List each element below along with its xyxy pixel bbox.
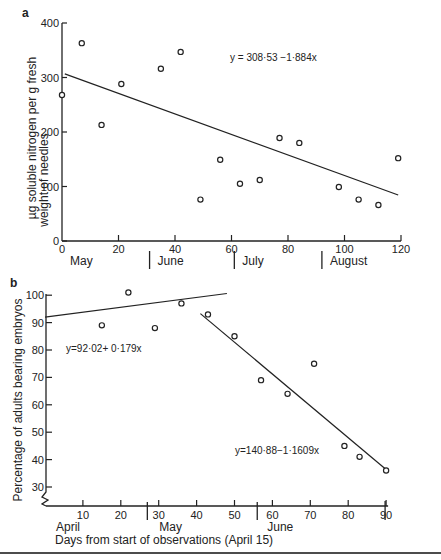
regression-equation-b-1: y=92·02+ 0·179x xyxy=(66,343,142,354)
x-tick-label-a: 20 xyxy=(112,243,124,255)
data-point-a xyxy=(198,197,203,202)
y-tick-label-b: 90 xyxy=(32,317,44,329)
data-point-a xyxy=(178,49,183,54)
month-label-b: April xyxy=(56,520,80,534)
y-tick-label-b: 70 xyxy=(32,371,44,383)
data-point-a xyxy=(277,135,282,140)
regression-line-a xyxy=(65,74,398,195)
y-tick-label-b: 100 xyxy=(26,289,44,301)
y-tick-label-b: 60 xyxy=(32,399,44,411)
x-tick-label-b: 80 xyxy=(342,509,354,521)
data-point-b xyxy=(179,301,184,306)
data-point-a xyxy=(79,41,84,46)
data-point-a xyxy=(158,66,163,71)
x-tick-label-b: 90 xyxy=(380,509,392,521)
data-point-a xyxy=(218,157,223,162)
x-tick-label-a: 60 xyxy=(225,243,237,255)
data-point-a xyxy=(376,202,381,207)
regression-equation-b-2: y=140·88−1·1609x xyxy=(235,445,319,456)
panel-label-b: b xyxy=(10,276,17,290)
data-point-a xyxy=(237,181,242,186)
data-point-a xyxy=(257,177,262,182)
data-point-a xyxy=(99,122,104,127)
month-label-a: July xyxy=(242,254,263,268)
x-tick-label-a: 0 xyxy=(59,243,65,255)
x-tick-label-a: 120 xyxy=(392,243,410,255)
data-point-b xyxy=(258,378,263,383)
month-label-a: June xyxy=(158,254,184,268)
data-point-a xyxy=(59,92,64,97)
x-tick-label-a: 80 xyxy=(282,243,294,255)
data-point-b xyxy=(205,312,210,317)
data-point-b xyxy=(232,334,237,339)
y-tick-label-a: 400 xyxy=(41,17,59,29)
y-axis-label-b: Percentage of adults bearing embryos xyxy=(11,299,25,502)
month-label-a: May xyxy=(70,254,93,268)
y-tick-label-b: 50 xyxy=(32,426,44,438)
x-tick-label-b: 40 xyxy=(190,509,202,521)
x-tick-label-b: 20 xyxy=(115,509,127,521)
data-point-a xyxy=(356,197,361,202)
data-point-a xyxy=(297,140,302,145)
chart-a: a0100200300400020406080100120MayJuneJuly… xyxy=(22,6,410,269)
data-point-a xyxy=(396,156,401,161)
data-point-b xyxy=(384,468,389,473)
y-axis-label-a-line2: weight of needles xyxy=(37,133,51,227)
data-point-b xyxy=(285,391,290,396)
regression-line-b-1 xyxy=(45,294,227,318)
y-tick-label-a: 300 xyxy=(41,72,59,84)
month-label-a: August xyxy=(330,254,368,268)
y-tick-label-b: 40 xyxy=(32,454,44,466)
y-tick-label-b: 80 xyxy=(32,344,44,356)
data-point-a xyxy=(336,184,341,189)
x-axis-label-b: Days from start of observations (April 1… xyxy=(55,533,273,547)
data-point-b xyxy=(342,443,347,448)
data-point-a xyxy=(119,81,124,86)
data-point-b xyxy=(311,361,316,366)
x-tick-label-b: 70 xyxy=(304,509,316,521)
data-point-b xyxy=(152,325,157,330)
x-tick-label-b: 50 xyxy=(228,509,240,521)
chart-b: b30405060708090100102030405060708090Apri… xyxy=(10,276,392,547)
month-label-b: May xyxy=(159,520,182,534)
data-point-b xyxy=(126,290,131,295)
regression-equation-a: y = 308·53 −1·884x xyxy=(230,52,317,63)
panel-label-a: a xyxy=(22,6,29,20)
month-label-b: June xyxy=(267,520,293,534)
figure: a0100200300400020406080100120MayJuneJuly… xyxy=(0,0,441,560)
data-point-b xyxy=(357,454,362,459)
data-point-b xyxy=(99,323,104,328)
y-tick-label-b: 30 xyxy=(32,481,44,493)
